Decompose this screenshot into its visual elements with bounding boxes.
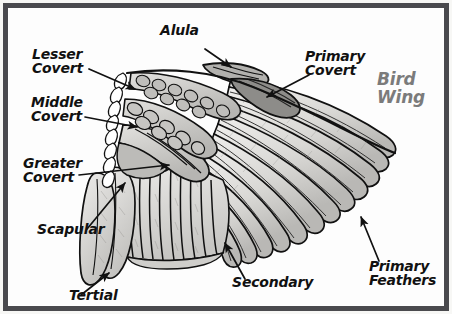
leader-primary-feathers (361, 217, 379, 261)
figure-frame-inner: Alula Lesser Covert Primary Covert Middl… (8, 8, 444, 306)
figure-title: Bird Wing (377, 71, 425, 107)
label-primary-feathers: Primary Feathers (369, 259, 436, 287)
label-greater-covert: Greater Covert (23, 156, 82, 184)
figure-frame: Alula Lesser Covert Primary Covert Middl… (3, 3, 449, 311)
label-primary-covert: Primary Covert (305, 49, 365, 77)
label-alula: Alula (160, 23, 199, 37)
wing-body (80, 63, 396, 285)
label-secondary: Secondary (232, 275, 313, 289)
illustration-area: Alula Lesser Covert Primary Covert Middl… (17, 17, 452, 314)
label-lesser-covert: Lesser Covert (32, 47, 83, 75)
label-tertial: Tertial (69, 288, 117, 302)
figure-canvas: Alula Lesser Covert Primary Covert Middl… (0, 0, 452, 314)
label-scapular: Scapular (37, 222, 104, 236)
label-middle-covert: Middle Covert (31, 95, 83, 123)
